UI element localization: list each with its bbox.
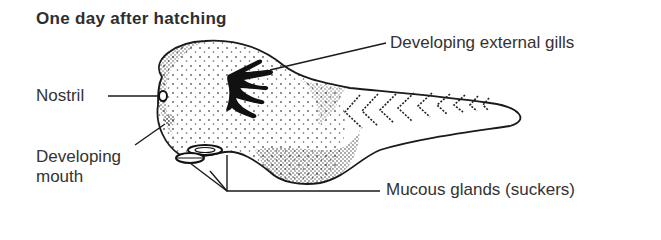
label-developing-external-gills: Developing external gills: [390, 33, 574, 53]
tadpole-body: [157, 41, 520, 184]
developing-mouth: [165, 114, 175, 126]
label-mucous-glands: Mucous glands (suckers): [386, 180, 575, 200]
nostril: [159, 91, 167, 101]
label-developing-mouth: Developing mouth: [36, 147, 156, 187]
label-nostril: Nostril: [36, 86, 84, 106]
